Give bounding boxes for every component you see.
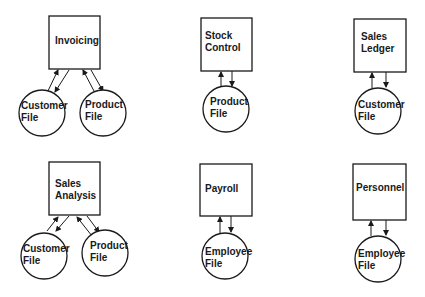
system-payroll: Payroll Employee File [200,164,253,279]
file-label: File [90,252,108,263]
file-label: File [210,108,228,119]
process-label: Payroll [205,183,239,194]
file-label: Customer [23,243,70,254]
arrow-to-file [56,216,69,231]
process-label: Control [205,42,241,53]
process-label: Personnel [356,182,405,193]
system-stock-control: Stock Control Product File [201,18,252,132]
process-label: Sales [55,178,82,189]
file-label: Employee [358,248,406,259]
file-label: Product [210,96,248,107]
system-personnel: Personnel Employee File [353,164,406,282]
process-label: Analysis [55,190,97,201]
file-label: Product [85,99,123,110]
arrow-to-file [55,70,69,92]
process-label: Sales [361,31,388,42]
process-label: Ledger [361,43,394,54]
arrow-to-process [47,217,58,231]
system-sales-analysis: Sales Analysis Customer File Product Fil… [21,162,128,279]
file-label: File [21,112,39,123]
file-label: File [358,111,376,122]
file-label: Customer [358,99,405,110]
system-invoicing: Invoicing Customer File Product File [19,16,126,136]
file-employee [355,236,401,282]
file-label: Employee [205,246,253,257]
process-label: Invoicing [55,35,99,46]
arrow-to-file [87,216,99,232]
systems-diagram: Invoicing Customer File Product File Sto… [0,0,425,297]
process-label: Stock [205,30,233,41]
file-label: File [85,111,103,122]
file-label: File [358,260,376,271]
file-label: Product [90,240,128,251]
file-label: File [23,255,41,266]
file-label: Customer [21,100,68,111]
file-label: File [205,258,223,269]
system-sales-ledger: Sales Ledger Customer File [354,19,406,134]
